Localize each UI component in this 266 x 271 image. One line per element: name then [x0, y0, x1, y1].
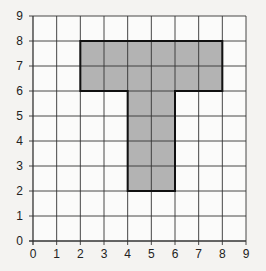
x-axis-labels: 0123456789: [30, 247, 250, 261]
x-tick-label: 6: [172, 247, 179, 261]
x-tick-label: 3: [101, 247, 108, 261]
y-tick-label: 0: [16, 234, 23, 248]
coordinate-grid-figure: 0123456789 0123456789: [0, 0, 266, 271]
x-tick-label: 4: [124, 247, 131, 261]
y-tick-label: 3: [16, 159, 23, 173]
y-tick-label: 4: [16, 134, 23, 148]
x-tick-label: 5: [148, 247, 155, 261]
x-tick-label: 1: [53, 247, 60, 261]
x-tick-label: 0: [30, 247, 37, 261]
y-tick-label: 1: [16, 209, 23, 223]
y-tick-label: 9: [16, 9, 23, 23]
x-tick-label: 9: [243, 247, 250, 261]
y-axis-labels: 0123456789: [16, 9, 23, 248]
grid-diagram: 0123456789 0123456789: [0, 0, 266, 271]
y-tick-label: 2: [16, 184, 23, 198]
x-tick-label: 8: [219, 247, 226, 261]
y-tick-label: 6: [16, 84, 23, 98]
y-tick-label: 5: [16, 109, 23, 123]
y-tick-label: 8: [16, 34, 23, 48]
x-tick-label: 7: [195, 247, 202, 261]
y-tick-label: 7: [16, 59, 23, 73]
x-tick-label: 2: [77, 247, 84, 261]
